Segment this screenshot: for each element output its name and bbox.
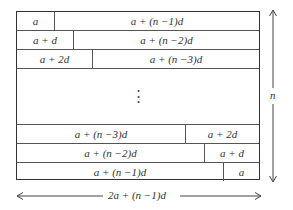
height-label: n [270,89,276,101]
width-label: 2a + (n −1)d [108,189,166,201]
diagram-canvas: a a + (n −1)d a + d a + (n −2)d a + 2d a… [0,0,293,210]
dimension-arrows [0,0,293,210]
